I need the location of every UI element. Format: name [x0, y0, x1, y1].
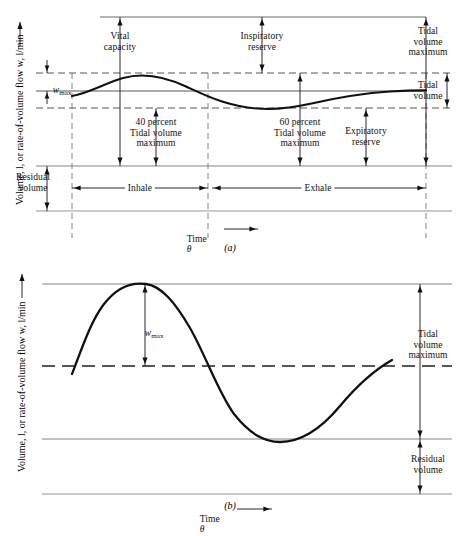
arrow-tidal-volume [444, 73, 449, 108]
time-word-a: Time [187, 234, 207, 244]
w-max-subscript-a: max [59, 89, 71, 97]
label-time-axis-b: Time θ [185, 503, 220, 536]
volume-curve-a [72, 76, 426, 110]
label-inhale: Inhale [125, 183, 155, 194]
caption-panel-b: (b) [224, 500, 236, 511]
label-40-percent: 40 percentTidal volumemaximum [130, 117, 182, 149]
label-expiratory-reserve: Expiratoryreserve [345, 126, 387, 147]
label-residual-volume-a: Residualvolume [16, 172, 50, 193]
arrow-y-axis-b [19, 274, 24, 298]
arrow-tidal-volume-maximum-b [417, 284, 422, 439]
label-60-percent: 60 percentTidal volumemaximum [274, 117, 326, 149]
theta-symbol-a: θ [187, 244, 192, 254]
arrow-time-axis-b [237, 506, 272, 511]
label-w-max-b: wmax [130, 317, 164, 350]
time-word-b: Time [200, 514, 220, 524]
panel-b: Volume, l, or rate-of-volume flow w, l/m… [0, 262, 460, 517]
label-exhale: Exhale [302, 183, 335, 194]
flow-curve-b [72, 284, 392, 442]
label-tidal-volume-maximum-b: Tidalvolumemaximum [408, 329, 447, 361]
label-w-max-a: wmax [38, 74, 72, 107]
w-max-subscript-b: max [151, 332, 163, 340]
label-inspiratory-reserve: Inspiratoryreserve [241, 31, 284, 52]
y-axis-label-b: Volume, l, or rate-of-volume flow w, l/m… [16, 301, 27, 472]
label-tidal-volume-maximum-a: Tidalvolumemaximum [408, 26, 447, 58]
arrow-time-axis-a [224, 226, 258, 231]
label-vital-capacity: Vitalcapacity [104, 31, 136, 52]
panel-b-graphic [0, 262, 460, 517]
label-time-axis-a: Time θ [172, 223, 207, 265]
panel-a-graphic [0, 0, 460, 262]
theta-symbol-b: θ [200, 524, 205, 534]
reference-lines-b [42, 284, 452, 494]
label-residual-volume-b: Residualvolume [411, 454, 445, 475]
panel-a: Volume, l, or rate-of-volume flow w, l/m… [0, 0, 460, 262]
label-tidal-volume-a: Tidalvolume [413, 80, 442, 101]
caption-panel-a: (a) [224, 242, 236, 253]
vertical-gridlines-a [72, 73, 426, 238]
